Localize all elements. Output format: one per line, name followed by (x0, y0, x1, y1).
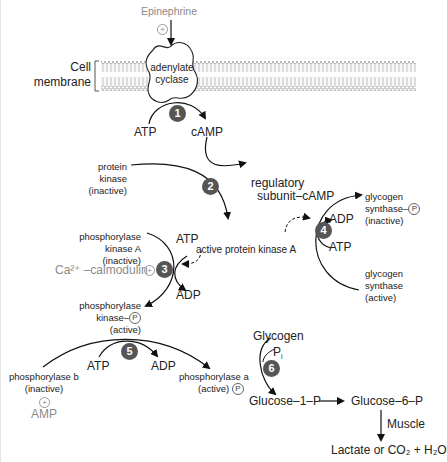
epinephrine-label: Epinephrine (141, 5, 197, 17)
protein-kinase-label-1: protein (69, 161, 127, 173)
atp-label-3: ATP (176, 233, 198, 245)
pha-label-1: phosphorylase a (179, 371, 249, 383)
phosphate-icon: P (232, 383, 244, 395)
atp-label-1: ATP (134, 126, 156, 138)
regulatory-label-1: regulatory (251, 177, 304, 189)
phosphate-icon: P (129, 312, 141, 324)
phb-label-2: (inactive) (9, 383, 79, 395)
adenylate-cyclase-label-2: cyclase (147, 74, 197, 86)
amp-label: AMP (31, 408, 57, 420)
phk-inactive-label-1: phosphorylase (41, 231, 141, 243)
adp-label-4: ADP (329, 213, 354, 225)
phk-active-label-2: kinase–P (41, 312, 141, 324)
active-pka-label: active protein kinase A (196, 244, 296, 256)
regulatory-label-2: subunit–cAMP (257, 190, 334, 202)
phb-label-1: phosphorylase b (9, 371, 79, 383)
gs-active-label-1: glycogen (365, 268, 403, 280)
phk-active-label-1: phosphorylase (41, 300, 141, 312)
step-5-badge: 5 (121, 343, 138, 360)
protein-kinase-label-3: (inactive) (69, 185, 127, 197)
step-2-badge: 2 (202, 178, 219, 195)
gs-inactive-label-1: glycogen (365, 191, 403, 203)
adp-label-3: ADP (176, 289, 201, 301)
muscle-label: Muscle (387, 418, 425, 430)
phosphate-icon: P (408, 203, 420, 215)
glucose-6-p-label: Glucose–6–P (351, 395, 423, 407)
gs-active-label-2: synthase (365, 280, 403, 292)
gs-inactive-label-3: (inactive) (365, 215, 404, 227)
stimulation-plus-icon: + (157, 24, 168, 35)
atp-label-4: ATP (329, 241, 351, 253)
cell-membrane-label-2: membrane (31, 76, 91, 88)
atp-label-5: ATP (87, 360, 109, 372)
pha-label-2: (active) P (198, 383, 244, 395)
step-1-badge: 1 (169, 105, 186, 122)
step-6-badge: 6 (263, 360, 280, 377)
end-product-label: Lactate or CO₂ + H₂O (331, 444, 447, 456)
adp-label-5: ADP (151, 360, 176, 372)
gs-active-label-3: (active) (365, 292, 396, 304)
phk-active-label-3: (active) (41, 324, 141, 336)
phk-inactive-label-2: kinase A (41, 243, 141, 255)
gs-inactive-label-2: synthase–P (365, 203, 420, 215)
calmodulin-label: Ca²⁺ –calmodulin (55, 264, 148, 276)
camp-label: cAMP (191, 126, 223, 138)
cell-membrane-label-1: Cell (31, 61, 91, 73)
calmodulin-plus-icon: + (144, 265, 155, 276)
glucose-1-p-label: Glucose–1–P (249, 395, 321, 407)
glycogen-label: Glycogen (253, 330, 304, 342)
step-4-badge: 4 (315, 222, 332, 239)
protein-kinase-label-2: kinase (69, 173, 127, 185)
step-3-badge: 3 (156, 261, 173, 278)
adenylate-cyclase-label-1: adenylate (147, 62, 197, 74)
